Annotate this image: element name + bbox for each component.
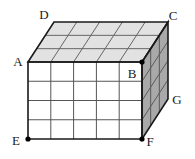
vertex-dot-B [139, 59, 144, 64]
vertex-label-F: F [146, 134, 153, 149]
vertex-dot-F [139, 136, 144, 141]
vertex-label-B: B [128, 66, 137, 81]
vertex-label-A: A [13, 54, 23, 69]
vertex-label-G: G [172, 92, 181, 107]
vertex-label-D: D [39, 7, 48, 22]
vertex-label-E: E [12, 133, 20, 148]
vertex-dot-E [25, 136, 30, 141]
geometry-figure: A B C D E F G [0, 0, 195, 159]
vertex-label-C: C [169, 8, 178, 23]
front-face-group [28, 62, 142, 139]
cuboid-diagram: A B C D E F G [0, 0, 195, 159]
